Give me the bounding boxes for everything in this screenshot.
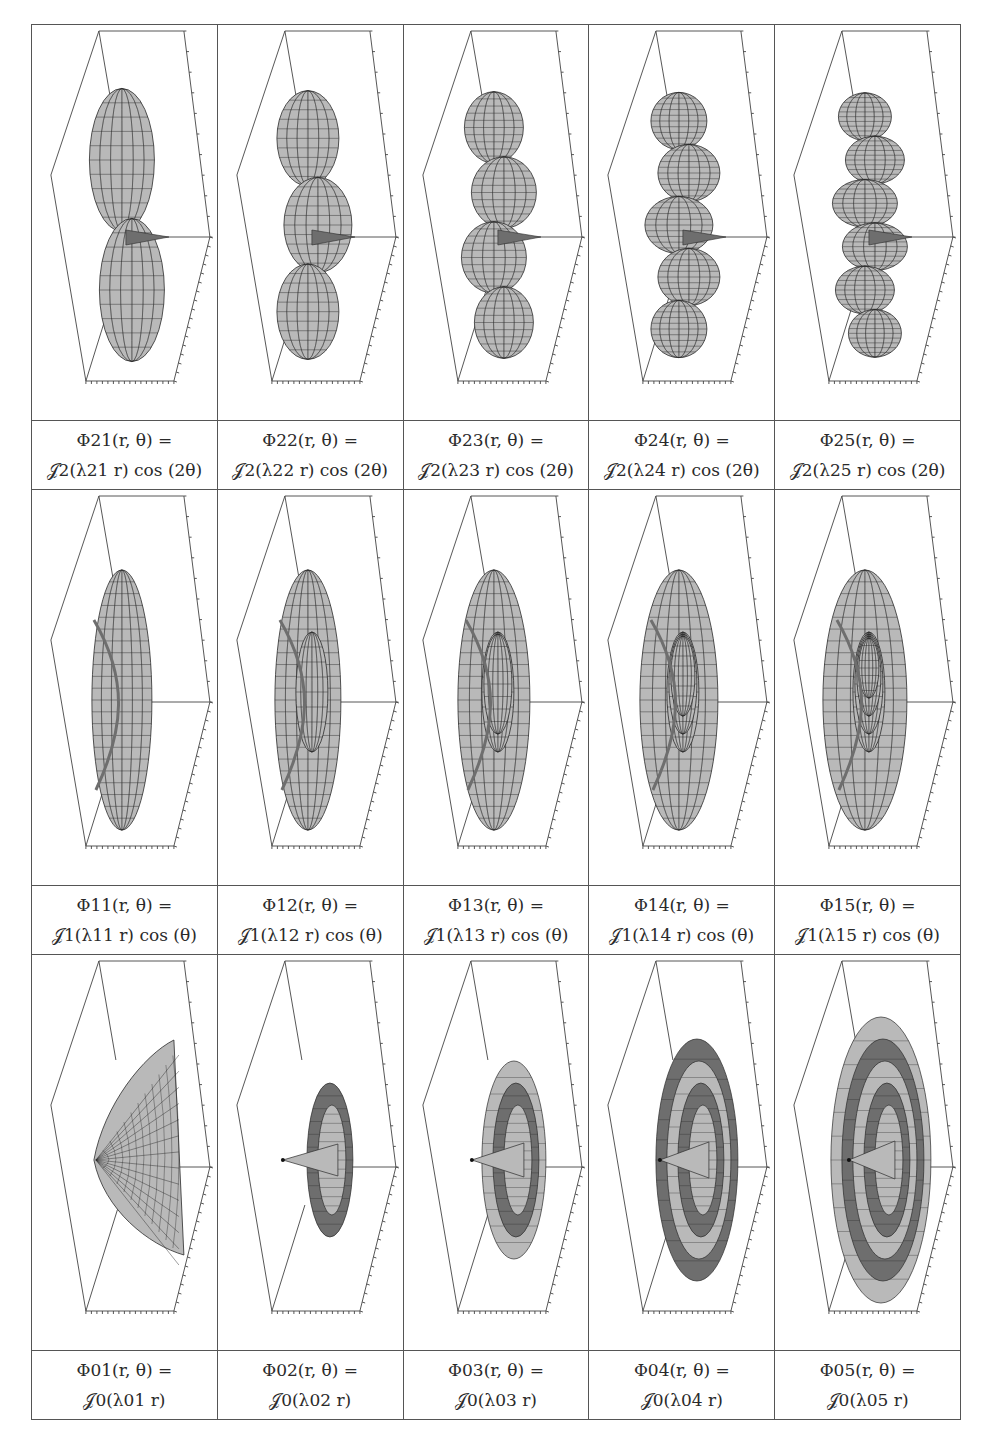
mode-surface (469, 1061, 545, 1259)
caption-14: Φ14(r, θ) =𝒥1(λ14 r) cos (θ) (589, 886, 775, 955)
caption-line-1: Φ21(r, θ) = (32, 425, 217, 455)
caption-line-1: Φ11(r, θ) = (32, 890, 217, 920)
caption-row-order-2: Φ21(r, θ) =𝒥2(λ21 r) cos (2θ) Φ22(r, θ) … (32, 421, 961, 490)
mode-surface (92, 570, 152, 830)
caption-01: Φ01(r, θ) =𝒥0(λ01 r) (32, 1351, 218, 1420)
caption-13: Φ13(r, θ) =𝒥1(λ13 r) cos (θ) (403, 886, 589, 955)
mode-surface (275, 570, 341, 830)
caption-line-1: Φ14(r, θ) = (589, 890, 774, 920)
caption-line-1: Φ13(r, θ) = (404, 890, 589, 920)
plot-row-order-2 (32, 25, 961, 421)
surface-plot-graphic (218, 955, 403, 1350)
caption-line-2: 𝒥2(λ25 r) cos (2θ) (775, 455, 960, 485)
caption-line-2: 𝒥1(λ14 r) cos (θ) (589, 920, 774, 950)
surface-plot-graphic (404, 25, 589, 420)
caption-line-1: Φ04(r, θ) = (589, 1355, 774, 1385)
mode-surface (281, 1083, 353, 1237)
surface-plot-05 (775, 955, 961, 1351)
surface-plot-21 (32, 25, 218, 421)
caption-row-order-0: Φ01(r, θ) =𝒥0(λ01 r) Φ02(r, θ) =𝒥0(λ02 r… (32, 1351, 961, 1420)
surface-plot-graphic (32, 25, 217, 420)
caption-line-1: Φ02(r, θ) = (218, 1355, 403, 1385)
caption-line-1: Φ25(r, θ) = (775, 425, 960, 455)
mode-surface (277, 91, 355, 360)
surface-plot-graphic (589, 955, 774, 1350)
surface-plot-graphic (775, 490, 960, 885)
caption-line-1: Φ12(r, θ) = (218, 890, 403, 920)
caption-02: Φ02(r, θ) =𝒥0(λ02 r) (217, 1351, 403, 1420)
mode-surface (645, 92, 726, 357)
surface-plot-23 (403, 25, 589, 421)
mode-surface (831, 1017, 931, 1303)
caption-line-2: 𝒥2(λ23 r) cos (2θ) (404, 455, 589, 485)
caption-11: Φ11(r, θ) =𝒥1(λ11 r) cos (θ) (32, 886, 218, 955)
surface-plot-graphic (218, 25, 403, 420)
plot-row-order-0 (32, 955, 961, 1351)
caption-line-1: Φ22(r, θ) = (218, 425, 403, 455)
caption-line-1: Φ24(r, θ) = (589, 425, 774, 455)
caption-22: Φ22(r, θ) =𝒥2(λ22 r) cos (2θ) (217, 421, 403, 490)
caption-line-1: Φ23(r, θ) = (404, 425, 589, 455)
caption-line-2: 𝒥2(λ21 r) cos (2θ) (32, 455, 217, 485)
surface-plot-15 (775, 490, 961, 886)
caption-24: Φ24(r, θ) =𝒥2(λ24 r) cos (2θ) (589, 421, 775, 490)
surface-plot-graphic (218, 490, 403, 885)
surface-plot-14 (589, 490, 775, 886)
bessel-mode-figure-grid: Φ21(r, θ) =𝒥2(λ21 r) cos (2θ) Φ22(r, θ) … (31, 24, 961, 1420)
surface-plot-graphic (404, 490, 589, 885)
caption-05: Φ05(r, θ) =𝒥0(λ05 r) (775, 1351, 961, 1420)
caption-12: Φ12(r, θ) =𝒥1(λ12 r) cos (θ) (217, 886, 403, 955)
surface-plot-24 (589, 25, 775, 421)
surface-plot-13 (403, 490, 589, 886)
caption-25: Φ25(r, θ) =𝒥2(λ25 r) cos (2θ) (775, 421, 961, 490)
mode-surface (89, 89, 169, 362)
surface-plot-25 (775, 25, 961, 421)
surface-plot-12 (217, 490, 403, 886)
caption-line-2: 𝒥2(λ22 r) cos (2θ) (218, 455, 403, 485)
surface-plot-graphic (32, 955, 217, 1350)
caption-line-2: 𝒥0(λ03 r) (404, 1385, 589, 1415)
caption-line-1: Φ01(r, θ) = (32, 1355, 217, 1385)
mode-surface (833, 93, 913, 357)
mode-surface (656, 1039, 738, 1281)
surface-plot-graphic (589, 25, 774, 420)
mode-surface (457, 570, 529, 830)
surface-plot-02 (217, 955, 403, 1351)
surface-plot-graphic (589, 490, 774, 885)
mode-surface (461, 92, 541, 359)
caption-line-2: 𝒥0(λ04 r) (589, 1385, 774, 1415)
mode-surface (640, 570, 718, 830)
surface-plot-01 (32, 955, 218, 1351)
surface-plot-22 (217, 25, 403, 421)
surface-plot-04 (589, 955, 775, 1351)
surface-plot-11 (32, 490, 218, 886)
surface-plot-03 (403, 955, 589, 1351)
caption-04: Φ04(r, θ) =𝒥0(λ04 r) (589, 1351, 775, 1420)
mode-surface (823, 570, 907, 830)
caption-line-1: Φ05(r, θ) = (775, 1355, 960, 1385)
caption-line-2: 𝒥1(λ15 r) cos (θ) (775, 920, 960, 950)
mode-surface (94, 1040, 184, 1265)
surface-plot-graphic (775, 25, 960, 420)
caption-line-2: 𝒥1(λ11 r) cos (θ) (32, 920, 217, 950)
plot-row-order-1 (32, 490, 961, 886)
caption-line-2: 𝒥0(λ01 r) (32, 1385, 217, 1415)
caption-line-2: 𝒥0(λ02 r) (218, 1385, 403, 1415)
caption-line-2: 𝒥0(λ05 r) (775, 1385, 960, 1415)
caption-row-order-1: Φ11(r, θ) =𝒥1(λ11 r) cos (θ) Φ12(r, θ) =… (32, 886, 961, 955)
caption-line-2: 𝒥1(λ13 r) cos (θ) (404, 920, 589, 950)
caption-line-1: Φ03(r, θ) = (404, 1355, 589, 1385)
caption-03: Φ03(r, θ) =𝒥0(λ03 r) (403, 1351, 589, 1420)
caption-23: Φ23(r, θ) =𝒥2(λ23 r) cos (2θ) (403, 421, 589, 490)
caption-line-2: 𝒥1(λ12 r) cos (θ) (218, 920, 403, 950)
caption-line-1: Φ15(r, θ) = (775, 890, 960, 920)
caption-21: Φ21(r, θ) =𝒥2(λ21 r) cos (2θ) (32, 421, 218, 490)
surface-plot-graphic (775, 955, 960, 1350)
surface-plot-graphic (404, 955, 589, 1350)
surface-plot-graphic (32, 490, 217, 885)
caption-15: Φ15(r, θ) =𝒥1(λ15 r) cos (θ) (775, 886, 961, 955)
caption-line-2: 𝒥2(λ24 r) cos (2θ) (589, 455, 774, 485)
